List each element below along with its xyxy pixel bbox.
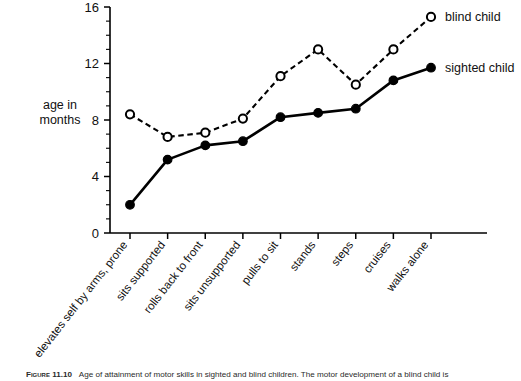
x-axis-category-label: pulls to sit (239, 238, 280, 286)
y-axis-title-line1: age in (43, 98, 77, 112)
data-point-sighted-child (163, 155, 172, 164)
data-point-blind-child (126, 110, 134, 118)
data-point-blind-child (314, 45, 322, 53)
x-axis-category-labels: elevates self by arms, pronesits support… (32, 238, 431, 359)
data-point-sighted-child (201, 141, 210, 150)
figure-container: age in months 0481216 elevates self by a… (0, 0, 521, 381)
x-axis-category-label: elevates self by arms, prone (32, 239, 130, 360)
x-axis (110, 233, 487, 239)
x-axis-category-label: steps (329, 239, 356, 268)
data-point-sighted-child (389, 76, 398, 85)
y-tick-label: 12 (85, 56, 99, 71)
series-line-sighted-child (130, 68, 431, 205)
figure-caption-label: Figure 11.10 (26, 370, 72, 379)
data-point-blind-child (352, 81, 360, 89)
data-point-sighted-child (352, 104, 361, 113)
data-point-blind-child (164, 133, 172, 141)
legend-label-sighted-child: sighted child (445, 61, 515, 75)
y-tick-label: 8 (92, 113, 99, 128)
data-point-sighted-child (239, 137, 248, 146)
x-axis-category-label: cruises (361, 239, 393, 275)
figure-caption: Figure 11.10 Age of attainment of motor … (26, 370, 521, 380)
chart-series-group (126, 13, 436, 209)
data-point-sighted-child (126, 201, 135, 210)
chart-legend: blind childsighted child (445, 10, 515, 75)
data-point-blind-child (201, 129, 209, 137)
data-point-sighted-child (314, 109, 323, 118)
data-point-blind-child (276, 72, 284, 80)
data-point-blind-child (427, 13, 435, 21)
data-point-sighted-child (427, 63, 436, 72)
y-axis: 0481216 (85, 0, 110, 241)
data-point-sighted-child (276, 113, 285, 122)
figure-caption-text: Age of attainment of motor skills in sig… (79, 370, 449, 379)
y-axis-title-line2: months (40, 113, 81, 127)
y-tick-label: 16 (85, 0, 99, 15)
y-tick-label: 0 (92, 226, 99, 241)
y-tick-label: 4 (92, 169, 99, 184)
data-point-blind-child (239, 115, 247, 123)
motor-skills-line-chart: age in months 0481216 elevates self by a… (0, 0, 521, 381)
y-axis-title: age in months (40, 98, 81, 127)
data-point-blind-child (389, 45, 397, 53)
legend-label-blind-child: blind child (445, 10, 501, 24)
x-axis-category-label: stands (287, 239, 317, 273)
